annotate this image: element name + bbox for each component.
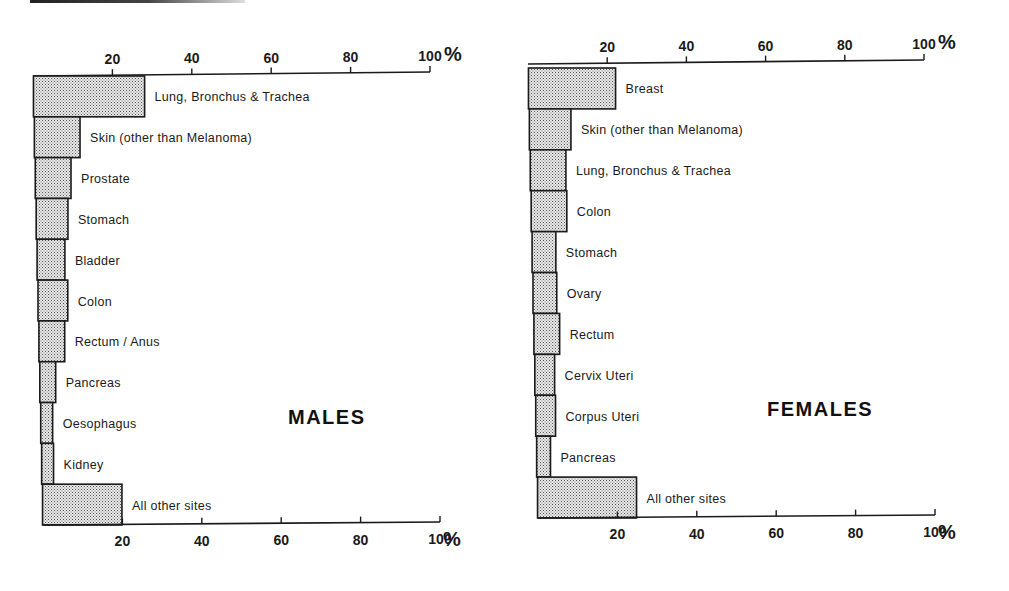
top-tick-label: 60 (758, 38, 774, 54)
bar (36, 198, 68, 239)
bar-row: Cervix Uteri (535, 354, 634, 395)
bar (531, 191, 567, 232)
top-tick-label: 80 (343, 49, 359, 65)
bar-label: Stomach (78, 213, 129, 227)
bar-row: Pancreas (40, 362, 121, 403)
bar-row: Rectum (534, 313, 615, 354)
bar (41, 403, 53, 444)
females-bars: BreastSkin (other than Melanoma)Lung, Br… (528, 68, 743, 518)
bar-row: Pancreas (537, 436, 616, 477)
males-chart: 20406080100% Lung, Bronchus & TracheaSki… (33, 43, 462, 550)
bar-row: Lung, Bronchus & Trachea (33, 76, 309, 117)
bar (37, 239, 65, 280)
bar (39, 321, 65, 362)
bar-label: Corpus Uteri (566, 410, 640, 424)
females-top-axis: 20406080100% (528, 31, 956, 64)
males-top-axis: 20406080100% (33, 43, 462, 76)
bar-label: Breast (626, 82, 664, 96)
bar (34, 117, 80, 158)
bar-label: Pancreas (560, 451, 615, 465)
top-tick-label: 40 (184, 50, 200, 66)
bar-label: Stomach (566, 246, 617, 260)
bar-label: All other sites (132, 499, 212, 513)
percent-unit-label: % (443, 528, 461, 550)
bar-row: Colon (531, 191, 611, 232)
bar-row: Colon (38, 280, 112, 321)
bar-row: Prostate (35, 158, 130, 199)
bar-row: Bladder (37, 239, 120, 280)
males-title: MALES (288, 406, 366, 428)
bottom-tick-label: 80 (848, 525, 864, 541)
top-tick-label: 80 (837, 37, 853, 53)
bar-label: Prostate (81, 172, 130, 186)
females-title: FEMALES (767, 398, 873, 420)
bottom-tick-label: 20 (115, 533, 131, 549)
cancer-incidence-charts: 20406080100% Lung, Bronchus & TracheaSki… (0, 0, 1009, 591)
bar-label: Ovary (567, 287, 602, 301)
bar-label: Oesophagus (63, 417, 137, 431)
bar (40, 362, 56, 403)
bar (35, 158, 71, 199)
bar (528, 68, 615, 109)
bar-label: All other sites (647, 492, 727, 506)
bottom-tick-label: 60 (768, 525, 784, 541)
bar-row: Skin (other than Melanoma) (34, 117, 252, 158)
bottom-tick-label: 40 (689, 526, 705, 542)
bar-row: Breast (528, 68, 663, 109)
males-bars: Lung, Bronchus & TracheaSkin (other than… (33, 76, 309, 525)
bottom-tick-label: 80 (353, 532, 369, 548)
bar-row: Kidney (42, 443, 104, 484)
top-tick-label: 100 (912, 36, 936, 52)
bar-label: Kidney (64, 458, 104, 472)
bar (43, 484, 122, 525)
bar-row: Corpus Uteri (536, 395, 640, 436)
bar-label: Skin (other than Melanoma) (90, 131, 252, 145)
bar (538, 477, 637, 518)
top-tick-label: 60 (263, 50, 279, 66)
top-tick-label: 100 (418, 48, 442, 64)
percent-unit-label: % (938, 521, 956, 543)
bar (537, 436, 551, 477)
bar-label: Rectum / Anus (75, 335, 160, 349)
females-chart: 20406080100% BreastSkin (other than Mela… (528, 31, 956, 543)
bar (533, 273, 557, 314)
bar (535, 354, 555, 395)
bottom-tick-label: 60 (273, 532, 289, 548)
percent-unit-label: % (938, 31, 956, 53)
bar (534, 313, 560, 354)
bottom-tick-label: 40 (194, 533, 210, 549)
top-tick-label: 20 (105, 51, 121, 67)
bar-row: Ovary (533, 273, 602, 314)
bar (38, 280, 68, 321)
bar (529, 109, 571, 150)
bar-label: Colon (577, 205, 611, 219)
bar-label: Bladder (75, 254, 120, 268)
percent-unit-label: % (444, 43, 462, 65)
bar (42, 443, 54, 484)
bar-label: Lung, Bronchus & Trachea (155, 90, 310, 104)
top-tick-label: 20 (599, 39, 615, 55)
bar-label: Colon (78, 295, 112, 309)
bar-row: All other sites (538, 477, 727, 518)
bar (532, 232, 556, 273)
bar-label: Pancreas (66, 376, 121, 390)
bar-label: Cervix Uteri (565, 369, 634, 383)
bottom-tick-label: 20 (610, 526, 626, 542)
bar-row: All other sites (43, 484, 212, 525)
bar (536, 395, 556, 436)
bar (33, 76, 144, 117)
bar-row: Stomach (532, 232, 617, 273)
bar-row: Stomach (36, 198, 129, 239)
bar-label: Rectum (570, 328, 615, 342)
bar-row: Lung, Bronchus & Trachea (530, 150, 731, 191)
bar-row: Rectum / Anus (39, 321, 160, 362)
bar-row: Skin (other than Melanoma) (529, 109, 743, 150)
bar-row: Oesophagus (41, 403, 137, 444)
bar (530, 150, 566, 191)
top-tick-label: 40 (679, 38, 695, 54)
bar-label: Skin (other than Melanoma) (581, 123, 743, 137)
bar-label: Lung, Bronchus & Trachea (576, 164, 731, 178)
